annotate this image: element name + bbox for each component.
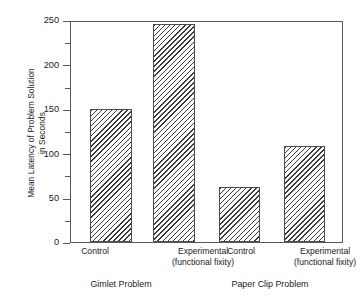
y-axis-title: Mean Latency of Problem Solution in Seco… <box>26 18 56 248</box>
y-tick-label-50: 50 <box>49 194 59 203</box>
y-tick-major-100 <box>63 154 70 155</box>
bar-gimlet-control <box>90 109 132 242</box>
y-tick-major-150 <box>63 110 70 111</box>
x-category-label-gimlet-control: Control <box>49 246 141 257</box>
y-axis-title-line-1: Mean Latency of Problem Solution <box>26 18 37 248</box>
y-tick-label-100: 100 <box>44 150 59 159</box>
x-group-label-gimlet: Gimlet Problem <box>56 279 186 290</box>
y-tick-major-250 <box>63 21 70 22</box>
y-tick-label-150: 150 <box>44 105 59 114</box>
bar-paperclip-control <box>219 187 260 242</box>
x-category-line-1: Control <box>227 246 255 256</box>
y-tick-major-0 <box>63 243 70 244</box>
bar-chart-figure: Mean Latency of Problem Solution in Seco… <box>0 0 363 304</box>
bar-gimlet-experimental <box>153 24 195 242</box>
x-category-line-2: (functional fixity) <box>148 257 258 268</box>
x-category-line-1: Experimental <box>300 246 350 256</box>
x-group-label-paperclip: Paper Clip Problem <box>195 279 345 290</box>
y-axis-title-line-2: in Seconds <box>37 18 48 248</box>
y-tick-label-250: 250 <box>44 16 59 25</box>
y-tick-major-200 <box>63 65 70 66</box>
y-tick-major-50 <box>63 199 70 200</box>
bar-paperclip-experimental <box>284 146 325 242</box>
x-category-line-2: (functional fixity) <box>270 257 363 268</box>
x-category-label-paperclip-experimental: Experimental (functional fixity) <box>270 246 363 267</box>
x-category-line-1: Control <box>81 246 109 256</box>
plot-area <box>70 21 343 243</box>
y-tick-label-200: 200 <box>44 61 59 70</box>
